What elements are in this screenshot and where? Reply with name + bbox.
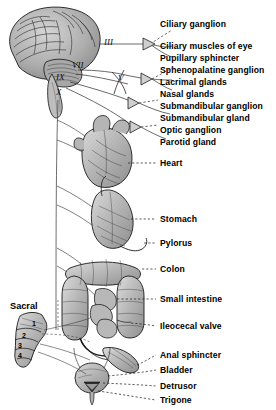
label-submandibular-gland: Submandibular gland (160, 114, 250, 123)
label-trigone: Trigone (160, 396, 192, 405)
sacral-vertebra-4: 4 (18, 352, 22, 359)
label-anal-sphincter: Anal sphincter (160, 351, 221, 360)
label-heart: Heart (160, 159, 182, 168)
sacral-label: Sacral (10, 301, 38, 311)
label-sphenopalatine-ganglion: Sphenopalatine ganglion (160, 66, 264, 75)
label-submandibular-ganglion: Submandibular ganglion (160, 102, 263, 111)
cranial-nerve-vii: VII (72, 60, 84, 70)
parasympathetic-diagram: III VII V IX X Sacral 1 2 3 4 Ciliary ga… (0, 0, 276, 410)
label-optic-ganglion: Optic ganglion (160, 126, 222, 135)
label-parotid-gland: Parotid gland (160, 138, 216, 147)
label-ileocecal-valve: Ileocecal valve (160, 322, 222, 331)
cranial-nerve-x: X (56, 87, 62, 97)
label-detrusor: Detrusor (160, 382, 197, 391)
label-small-intestine: Small intestine (160, 295, 222, 304)
label-colon: Colon (160, 265, 185, 274)
label-lacrimal-glands: Lacrimal glands (160, 78, 227, 87)
cranial-nerve-iii: III (104, 37, 113, 47)
label-ciliary-muscles-of-eye: Ciliary muscles of eye (160, 42, 252, 51)
label-pylorus: Pylorus (160, 239, 192, 248)
label-nasal-glands: Nasal glands (160, 90, 214, 99)
sacral-vertebra-1: 1 (32, 320, 36, 327)
cranial-nerve-ix: IX (56, 72, 65, 82)
label-stomach: Stomach (160, 215, 197, 224)
label-ciliary-ganglion: Ciliary ganglion (160, 20, 226, 29)
sacral-vertebra-2: 2 (22, 332, 26, 339)
cranial-nerve-v: V (118, 73, 124, 83)
label-bladder: Bladder (160, 366, 193, 375)
label-pupillary-sphincter: Pupillary sphincter (160, 54, 239, 63)
sacral-vertebra-3: 3 (18, 342, 22, 349)
